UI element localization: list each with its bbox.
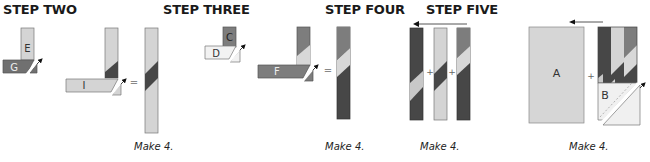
step-four-strip-3 <box>457 28 470 120</box>
piece-a: A <box>529 27 584 123</box>
piece-c: C <box>223 27 236 47</box>
piece-c-label: C <box>226 32 233 43</box>
step-five-pieced-strips <box>598 27 637 83</box>
left-arrow-icon <box>413 21 419 27</box>
fold-arrow-icon <box>640 84 644 88</box>
step-two-result-strip <box>145 28 158 133</box>
fold-arrow-icon <box>121 80 125 84</box>
piece-e: E <box>21 28 34 60</box>
step-two-diagram: E G I = <box>3 28 158 133</box>
piece-a-label: A <box>553 67 561 80</box>
fold-arrow-icon <box>313 66 317 70</box>
plus-operator: + <box>587 71 595 81</box>
equals-operator: = <box>130 77 138 88</box>
step-four-diagram: + + <box>410 21 470 120</box>
piece-d: D <box>205 46 240 63</box>
step-five-diagram: A + B <box>529 20 644 126</box>
fold-arrow-icon <box>37 60 41 64</box>
piece-f: F <box>258 65 313 82</box>
fold-arrow-icon <box>240 46 244 50</box>
unit-e-with-g <box>105 28 118 78</box>
quilt-diagram-canvas: E G I = <box>0 0 650 162</box>
equals-operator: = <box>324 65 332 76</box>
piece-b-label: B <box>601 89 609 102</box>
step-three-result-strip <box>337 27 350 119</box>
step-four-strip-2 <box>434 28 447 120</box>
left-arrow-icon <box>569 20 575 25</box>
step-three-diagram: C D F = <box>205 27 350 119</box>
piece-d-label: D <box>212 48 220 59</box>
unit-c-with-d <box>297 27 310 65</box>
piece-g: G <box>3 60 37 75</box>
piece-i-label: I <box>83 80 86 91</box>
piece-b: B <box>598 83 640 125</box>
plus-operator: + <box>448 67 456 77</box>
piece-e-label: E <box>24 43 30 54</box>
step-four-strip-1 <box>410 28 423 120</box>
piece-g-label: G <box>10 62 18 73</box>
piece-f-label: F <box>274 66 280 77</box>
plus-operator: + <box>426 67 434 77</box>
piece-i: I <box>66 79 121 96</box>
